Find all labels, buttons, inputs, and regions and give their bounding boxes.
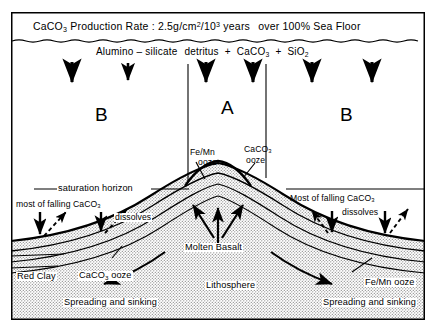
banner-text-3: years [223, 20, 250, 32]
dissolution-dissolves-right: dissolves [341, 208, 379, 217]
diagram-body [11, 13, 425, 321]
input-sio2: SiO [287, 46, 304, 57]
flank-caco3-ooze-label: CaCO3 ooze [78, 271, 133, 281]
crest-label-caco3-ooze: CaCO3 ooze [244, 145, 272, 165]
banner-text-2: /10 [201, 20, 216, 32]
flank-caco3-text: CaCO [79, 270, 105, 280]
banner-compound: CaCO [33, 20, 63, 32]
dissolve-arrow-right-2 [390, 209, 408, 233]
zone-label-left-b: B [95, 105, 108, 124]
lithosphere-label: Lithosphere [205, 281, 256, 290]
flank-caco3-tail: ooze [111, 270, 131, 280]
banner-sup-2: 3 [216, 21, 220, 29]
dissolution-right-sub: 3 [371, 197, 374, 203]
input-dash: – [137, 46, 143, 57]
input-sio2-sub: 2 [305, 51, 309, 58]
zone-label-center-a: A [221, 98, 234, 117]
red-clay-label: Red Clay [16, 272, 57, 281]
sea-surface-wavy-line [12, 40, 418, 42]
molten-basalt-label: Molten Basalt [184, 243, 243, 252]
input-alumino: Alumino [96, 46, 134, 57]
saturation-horizon-label: saturation horizon [57, 184, 134, 193]
input-flux-label: Alumino – silicate detritus + CaCO3 + Si… [96, 47, 309, 58]
dissolution-dissolves-left: dissolves [114, 213, 152, 222]
crest-label-femn-ooze: Fe/Mn ooze [190, 148, 217, 166]
spreading-label-left: Spreading and sinking [63, 298, 158, 307]
flank-femn-ooze-label: Fe/Mn ooze [364, 278, 416, 287]
input-caco3: CaCO [237, 46, 266, 57]
crest-caco3-line2: ooze [246, 156, 272, 165]
input-silicate: silicate [145, 46, 177, 57]
banner-production-rate: CaCO3 Production Rate : 2.5g/cm2/103 yea… [33, 21, 361, 34]
flank-caco3-sub: 3 [105, 274, 109, 281]
input-plus-1: + [225, 46, 231, 57]
input-plus-2: + [275, 46, 281, 57]
banner-compound-sub: 3 [63, 26, 67, 34]
figure-root: CaCO3 Production Rate : 2.5g/cm2/103 yea… [0, 0, 436, 333]
dissolution-label-left: most of falling CaCO3 [16, 200, 101, 210]
crest-femn-line1: Fe/Mn [190, 148, 217, 157]
zone-label-right-b: B [340, 105, 353, 124]
dissolution-left-sub: 3 [97, 203, 100, 209]
dissolution-left-text: most of falling CaCO [16, 199, 97, 209]
crest-caco3-line1: CaCO3 [244, 145, 272, 155]
crest-caco3-text: CaCO [244, 144, 268, 154]
input-detritus: detritus [184, 46, 218, 57]
dissolution-label-right: Most of falling CaCO3 [290, 194, 375, 204]
crest-caco3-sub: 3 [268, 148, 271, 154]
dissolution-right-text: Most of falling CaCO [290, 193, 371, 203]
spreading-label-right: Spreading and sinking [322, 298, 417, 307]
banner-text-1: Production Rate : 2.5g/cm [70, 20, 196, 32]
banner-text-4: over 100% Sea Floor [258, 20, 360, 32]
input-caco3-sub: 3 [265, 51, 269, 58]
crest-femn-line2: ooze [198, 158, 217, 167]
